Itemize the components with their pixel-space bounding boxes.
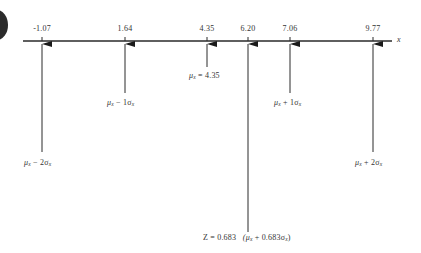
number-line-diagram [0,0,421,253]
axis-label-x: x [397,35,401,44]
label-minus-2-sigma: μx − 2σx [24,158,51,167]
label-plus-2-sigma: μx + 2σx [355,158,382,167]
tick-label: 7.06 [283,24,298,33]
label-minus-1-sigma: μx − 1σx [107,98,134,107]
label-mean: μx = 4.35 [189,71,220,80]
tick-label: 6.20 [241,24,256,33]
label-z-value: Z = 0.683 (μx + 0.683σx) [203,233,291,242]
tick-label: 1.64 [118,24,133,33]
label-plus-1-sigma: μx + 1σx [274,98,301,107]
tick-label: -1.07 [33,24,51,33]
tick-label: 4.35 [200,24,215,33]
tick-label: 9.77 [366,24,381,33]
